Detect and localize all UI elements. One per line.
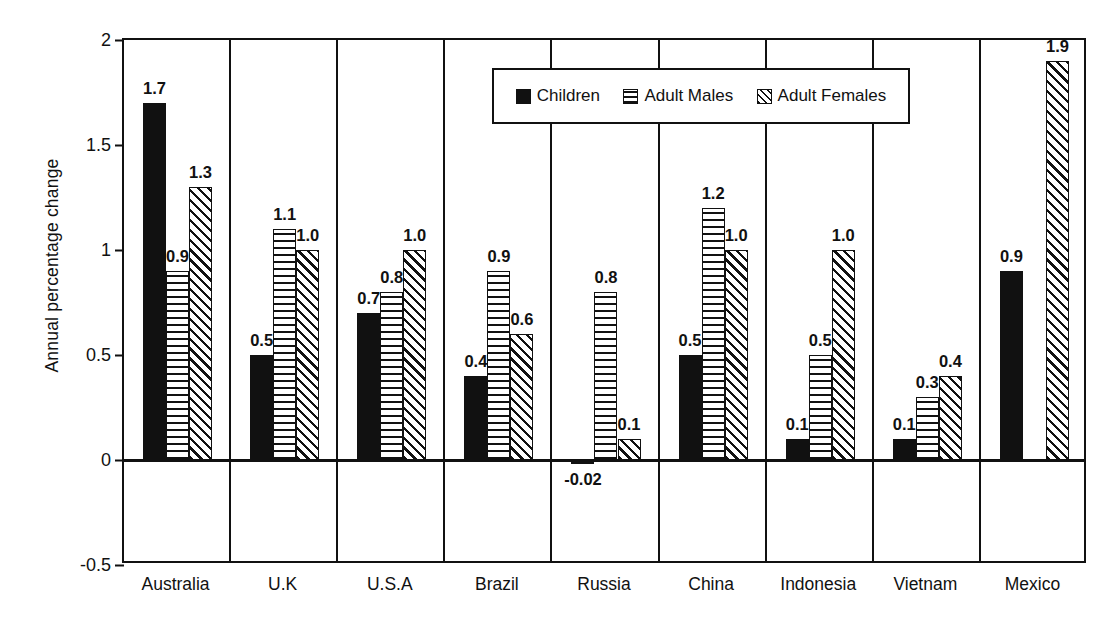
x-axis-label-brazil: Brazil [475,574,519,595]
y-axis-tick: 2 [101,30,124,51]
bar-value-label: 0.4 [464,352,487,371]
bar-females [939,376,962,460]
bar-children [679,355,702,460]
chart-legend: Children Adult Males Adult Females [492,68,910,124]
bar-value-label: 0.8 [595,268,618,287]
bar-value-label: 1.0 [832,226,855,245]
bar-males [380,292,403,460]
bar-value-label: 0.1 [618,415,641,434]
legend-label-children: Children [537,86,600,106]
bar-value-label: 0.3 [916,373,939,392]
x-axis-label-russia: Russia [577,574,631,595]
y-axis-tick: 0.5 [86,345,124,366]
bar-value-label: 0.8 [380,268,403,287]
bar-children [143,103,166,460]
bar-value-label: 0.6 [510,310,533,329]
legend-item-adult-females: Adult Females [757,86,887,106]
legend-item-adult-males: Adult Males [623,86,733,106]
bar-males [166,271,189,460]
legend-label-adult-males: Adult Males [644,86,733,106]
bar-children [250,355,273,460]
legend-label-adult-females: Adult Females [778,86,887,106]
bar-value-label: 1.7 [143,79,166,98]
bar-group-uk: 0.51.11.0 [231,40,338,561]
bar-value-label: 0.9 [1000,247,1023,266]
bar-children [357,313,380,460]
bar-females [618,439,641,460]
y-axis-tick: 1 [101,240,124,261]
chart-page: Annual percentage change 21.510.50-0.51.… [0,0,1114,627]
bar-value-label: 1.3 [189,163,212,182]
y-axis-tick: 0 [101,450,124,471]
bar-group-mexico: 0.91.9 [981,40,1088,561]
x-axis-label-mexico: Mexico [1005,574,1060,595]
bar-value-label: 0.7 [357,289,380,308]
bar-males [702,208,725,460]
bar-males [916,397,939,460]
bar-children [893,439,916,460]
legend-swatch-adult-males-icon [623,89,638,104]
bar-value-label: -0.02 [564,470,602,489]
bar-group-usa: 0.70.81.0 [338,40,445,561]
bar-females [725,250,748,460]
bar-value-label: 0.1 [893,415,916,434]
bar-males [809,355,832,460]
bar-value-label: 0.9 [487,247,510,266]
x-axis-label-indonesia: Indonesia [780,574,856,595]
bar-value-label: 1.0 [296,226,319,245]
bar-value-label: 0.5 [809,331,832,350]
legend-item-children: Children [516,86,600,106]
legend-swatch-adult-females-icon [757,89,772,104]
bar-females [1046,61,1069,460]
bar-value-label: 0.1 [786,415,809,434]
bar-value-label: 0.5 [250,331,273,350]
bar-children [1000,271,1023,460]
x-axis-label-usa: U.S.A [367,574,413,595]
bar-males [273,229,296,460]
bar-value-label: 0.5 [679,331,702,350]
bar-females [832,250,855,460]
bar-value-label: 0.9 [166,247,189,266]
bar-children [786,439,809,460]
y-axis-tick: -0.5 [80,555,124,576]
bar-value-label: 1.0 [725,226,748,245]
bar-value-label: 1.1 [273,205,296,224]
bar-females [403,250,426,460]
x-axis-label-china: China [688,574,734,595]
y-axis-title: Annual percentage change [42,116,63,416]
x-axis-label-australia: Australia [142,574,210,595]
bar-females [510,334,533,460]
y-axis-tick: 1.5 [86,135,124,156]
bar-females [296,250,319,460]
bar-children [464,376,487,460]
bar-value-label: 0.4 [939,352,962,371]
bar-group-australia: 1.70.91.3 [124,40,231,561]
legend-swatch-children-icon [516,89,531,104]
bar-males [487,271,510,460]
bar-children [571,460,594,464]
bar-value-label: 1.9 [1046,37,1069,56]
bar-males [594,292,617,460]
bar-value-label: 1.2 [702,184,725,203]
bar-value-label: 1.0 [403,226,426,245]
x-axis-label-vietnam: Vietnam [893,574,957,595]
x-axis-label-uk: U.K [268,574,297,595]
bar-females [189,187,212,460]
